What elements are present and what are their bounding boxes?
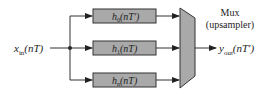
svg-text:h0(nT′): h0(nT′) bbox=[112, 11, 140, 23]
svg-text:h1(nT): h1(nT) bbox=[112, 43, 138, 55]
svg-text:hn(nT): hn(nT) bbox=[112, 75, 138, 87]
filter-block-1: h1(nT) bbox=[93, 41, 156, 55]
filter-block-0: h0(nT′) bbox=[93, 9, 156, 23]
mux-block bbox=[180, 8, 195, 88]
output-signal-label: yout(nT′) bbox=[218, 42, 255, 57]
input-signal-label: xin(nT) bbox=[13, 42, 44, 57]
multirate-filter-bank-diagram: xin(nT) h0(nT′) h1(nT) hn(nT) Mux (upsam… bbox=[0, 0, 275, 97]
mux-subtitle: (upsampler) bbox=[206, 19, 254, 31]
filter-block-2: hn(nT) bbox=[93, 73, 156, 87]
mux-title: Mux bbox=[221, 7, 240, 18]
